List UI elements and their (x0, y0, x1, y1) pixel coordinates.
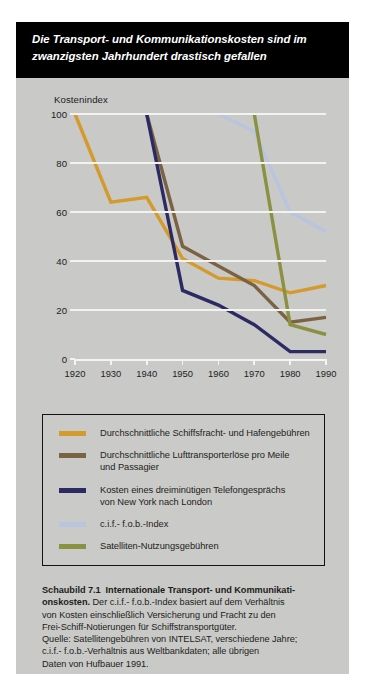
legend-label: Durchschnittliche Lufttransporterlöse pr… (100, 449, 289, 473)
title-line-1: Die Transport- und Kommunikationskosten … (32, 31, 333, 48)
x-tick-mark (182, 359, 184, 365)
y-tick-mark (70, 113, 75, 115)
y-tick-label: 20 (56, 305, 67, 316)
y-tick-label: 60 (56, 207, 67, 218)
caption-heading-2: onskosten. (42, 597, 90, 607)
chart: Kostenindex 0204060801001920193019401950… (16, 78, 349, 408)
y-tick-label: 80 (56, 158, 67, 169)
figure-container: Die Transport- und Kommunikationskosten … (16, 22, 349, 674)
x-tick-mark (74, 359, 76, 365)
series-line (75, 114, 326, 293)
caption-source-1: Quelle: Satellitengebühren von INTELSAT,… (42, 634, 297, 644)
caption-paragraph: Schaubild 7.1 Internationale Transport- … (42, 584, 334, 633)
x-tick-label: 1960 (208, 368, 229, 379)
x-tick-label: 1950 (172, 368, 193, 379)
x-tick-mark (146, 359, 148, 365)
x-tick-label: 1940 (136, 368, 157, 379)
y-tick-mark (70, 260, 75, 262)
x-tick-mark (253, 359, 255, 365)
legend-label: Durchschnittliche Schiffsfracht- und Haf… (100, 427, 310, 439)
x-tick-mark (110, 359, 112, 365)
legend-color-swatch (59, 431, 86, 436)
y-tick-mark (70, 211, 75, 213)
figure-caption: Schaubild 7.1 Internationale Transport- … (42, 584, 334, 670)
title-banner: Die Transport- und Kommunikationskosten … (16, 22, 349, 78)
caption-label: Schaubild 7.1 (42, 585, 101, 595)
x-tick-label: 1970 (244, 368, 265, 379)
x-tick-mark (289, 359, 291, 365)
series-line (147, 114, 326, 352)
y-tick-label: 0 (62, 354, 67, 365)
caption-body-2: von Kosten einschließlich Versicherung u… (42, 610, 276, 620)
legend-item[interactable]: Durchschnittliche Lufttransporterlöse pr… (53, 449, 314, 473)
caption-source-3: Daten von Hufbauer 1991. (42, 659, 149, 669)
gridline (75, 309, 326, 311)
x-tick-mark (218, 359, 220, 365)
legend-label: Kosten eines dreiminütigen Telefongesprä… (100, 484, 285, 508)
legend-item[interactable]: Kosten eines dreiminütigen Telefongesprä… (53, 484, 314, 508)
caption-heading: Internationale Transport- und Kommunikat… (106, 585, 295, 595)
legend-item[interactable]: Satelliten-Nutzungsgebühren (53, 540, 314, 552)
gridline (75, 211, 326, 213)
chart-legend: Durchschnittliche Schiffsfracht- und Haf… (42, 414, 325, 566)
caption-body-3: Frei-Schiff-Notierungen für Schiffstrans… (42, 622, 237, 632)
legend-color-swatch (59, 488, 86, 493)
x-tick-label: 1980 (280, 368, 301, 379)
series-lines (75, 114, 326, 359)
legend-item[interactable]: c.i.f.- f.o.b.-Index (53, 518, 314, 530)
x-tick-label: 1920 (65, 368, 86, 379)
legend-label: Satelliten-Nutzungsgebühren (100, 540, 219, 552)
gridline (75, 162, 326, 164)
y-tick-label: 40 (56, 256, 67, 267)
caption-source-2: c.i.f.- f.o.b.-Verhältnis aus Weltbankda… (42, 646, 259, 656)
legend-item[interactable]: Durchschnittliche Schiffsfracht- und Haf… (53, 427, 314, 439)
y-tick-mark (70, 162, 75, 164)
legend-color-swatch (59, 544, 86, 549)
caption-source: Quelle: Satellitengebühren von INTELSAT,… (42, 633, 334, 670)
y-tick-label: 100 (51, 109, 67, 120)
title-line-2: zwanzigsten Jahrhundert drastisch gefall… (32, 48, 333, 65)
y-tick-mark (70, 309, 75, 311)
x-tick-label: 1930 (100, 368, 121, 379)
caption-body-1: Der c.i.f.- f.o.b.-Index basiert auf dem… (90, 597, 285, 607)
gridline (75, 113, 326, 115)
plot-area: 0204060801001920193019401950196019701980… (75, 114, 326, 359)
legend-color-swatch (59, 522, 86, 527)
gridline (75, 260, 326, 262)
legend-color-swatch (59, 453, 86, 458)
x-tick-mark (325, 359, 327, 365)
x-tick-label: 1990 (316, 368, 337, 379)
y-axis-title: Kostenindex (54, 94, 108, 105)
figure-page: Die Transport- und Kommunikationskosten … (0, 0, 365, 695)
legend-label: c.i.f.- f.o.b.-Index (100, 518, 168, 530)
